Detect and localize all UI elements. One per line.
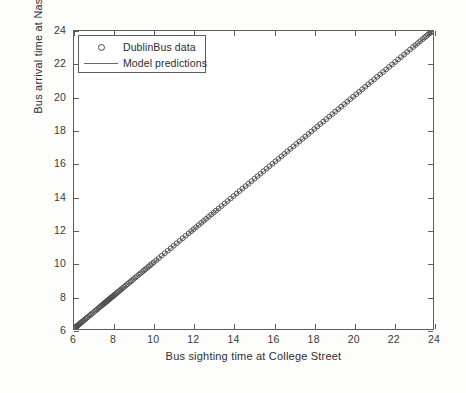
legend-item-model-predictions: Model predictions bbox=[79, 55, 205, 71]
y-tick-right bbox=[428, 31, 433, 32]
x-tick-label: 18 bbox=[308, 333, 320, 345]
x-tick-label: 6 bbox=[70, 333, 76, 345]
y-tick-right bbox=[428, 64, 433, 65]
x-tick-label: 22 bbox=[388, 333, 400, 345]
x-tick-top bbox=[355, 31, 356, 36]
y-tick-label: 6 bbox=[60, 324, 66, 336]
y-tick bbox=[74, 164, 79, 165]
y-tick-right bbox=[428, 98, 433, 99]
x-tick bbox=[315, 324, 316, 329]
y-tick-label: 8 bbox=[60, 291, 66, 303]
legend: DublinBus data Model predictions bbox=[78, 35, 206, 73]
plot-area bbox=[73, 30, 434, 330]
y-tick-right bbox=[428, 298, 433, 299]
x-tick-label: 12 bbox=[187, 333, 199, 345]
x-axis-label: Bus sighting time at College Street bbox=[73, 350, 434, 362]
x-tick-label: 24 bbox=[428, 333, 440, 345]
plot-canvas bbox=[74, 31, 433, 329]
dublinbus-data-points bbox=[74, 31, 433, 329]
y-axis-label: Bus arrival time at Nassau Street bbox=[32, 0, 44, 180]
x-tick bbox=[435, 324, 436, 329]
x-tick bbox=[154, 324, 155, 329]
x-tick bbox=[234, 324, 235, 329]
figure: Bus arrival time at Nassau Street 681012… bbox=[0, 0, 466, 393]
y-tick-right bbox=[428, 198, 433, 199]
legend-label-dublinbus-data: DublinBus data bbox=[123, 41, 196, 53]
x-tick bbox=[194, 324, 195, 329]
x-tick-top bbox=[275, 31, 276, 36]
y-tick bbox=[74, 98, 79, 99]
x-tick bbox=[114, 324, 115, 329]
y-tick-label: 16 bbox=[54, 157, 66, 169]
x-tick bbox=[74, 324, 75, 329]
y-tick-right bbox=[428, 331, 433, 332]
y-tick-label: 18 bbox=[54, 124, 66, 136]
legend-item-dublinbus-data: DublinBus data bbox=[79, 39, 205, 55]
y-tick bbox=[74, 231, 79, 232]
x-tick-top bbox=[234, 31, 235, 36]
y-tick-right bbox=[428, 131, 433, 132]
y-tick bbox=[74, 264, 79, 265]
circle-marker-icon bbox=[79, 44, 123, 51]
y-tick bbox=[74, 131, 79, 132]
x-tick bbox=[275, 324, 276, 329]
x-tick-top bbox=[435, 31, 436, 36]
y-tick-right bbox=[428, 231, 433, 232]
x-axis-label-text: Bus sighting time at College Street bbox=[166, 350, 342, 362]
x-tick-top bbox=[315, 31, 316, 36]
x-tick-label: 14 bbox=[227, 333, 239, 345]
y-tick-label: 12 bbox=[54, 224, 66, 236]
x-tick-top bbox=[395, 31, 396, 36]
y-tick bbox=[74, 198, 79, 199]
y-axis-label-text: Bus arrival time at Nassau Street bbox=[32, 0, 44, 114]
y-tick bbox=[74, 298, 79, 299]
x-tick bbox=[355, 324, 356, 329]
x-tick-label: 10 bbox=[147, 333, 159, 345]
y-tick-right bbox=[428, 164, 433, 165]
y-tick-label: 20 bbox=[54, 91, 66, 103]
legend-label-model-predictions: Model predictions bbox=[123, 57, 207, 69]
x-tick-label: 20 bbox=[348, 333, 360, 345]
y-tick-label: 10 bbox=[54, 257, 66, 269]
x-tick bbox=[395, 324, 396, 329]
y-tick-right bbox=[428, 264, 433, 265]
y-tick-label: 24 bbox=[54, 24, 66, 36]
x-tick-label: 8 bbox=[110, 333, 116, 345]
y-tick bbox=[74, 331, 79, 332]
y-tick-label: 22 bbox=[54, 57, 66, 69]
x-tick-label: 16 bbox=[268, 333, 280, 345]
y-tick-label: 14 bbox=[54, 191, 66, 203]
y-tick bbox=[74, 31, 79, 32]
line-marker-icon bbox=[79, 63, 123, 64]
